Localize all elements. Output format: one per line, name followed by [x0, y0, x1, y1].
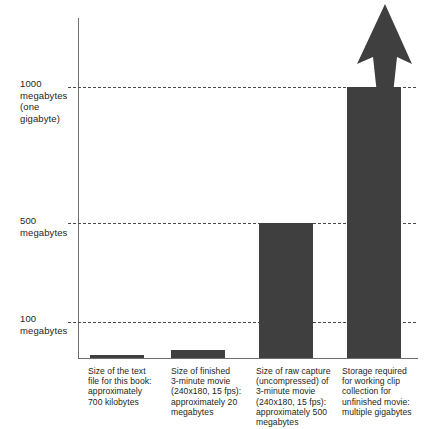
caption-line: 3-minute movie — [171, 376, 255, 386]
caption-line: multiple gigabytes — [342, 407, 426, 417]
caption-line: Storage required — [342, 366, 426, 376]
caption-line: 700 kilobytes — [88, 397, 172, 407]
caption-line: approximately — [88, 386, 172, 396]
y-axis-line — [78, 18, 79, 359]
caption-finished-movie: Size of finished 3-minute movie (240x180… — [171, 366, 255, 417]
caption-line: approximately 500 — [256, 407, 340, 417]
y-tick-1000-unit: megabytes — [20, 90, 82, 102]
y-tick-1000: 1000 megabytes (one gigabyte) — [20, 78, 82, 124]
overflow-arrow-icon — [345, 2, 415, 94]
caption-line: (uncompressed) of — [256, 376, 340, 386]
y-tick-1000-note: (one gigabyte) — [20, 101, 82, 124]
caption-line: megabytes — [256, 417, 340, 427]
y-tick-500-value: 500 — [20, 215, 82, 227]
caption-line: 3-minute movie — [256, 386, 340, 396]
caption-line: approximately 20 — [171, 397, 255, 407]
caption-line: (240x180, 15 fps): — [171, 386, 255, 396]
bar-text-file — [90, 355, 144, 358]
caption-line: (240x180, 15 fps): — [256, 397, 340, 407]
bar-finished-movie — [171, 350, 225, 358]
arrow-up-icon — [345, 2, 415, 94]
bar-raw-capture — [259, 223, 313, 358]
caption-line: Size of the text — [88, 366, 172, 376]
caption-line: megabytes — [171, 407, 255, 417]
caption-working-clip-collection: Storage required for working clip collec… — [342, 366, 426, 417]
chart-page: 1000 megabytes (one gigabyte) 500 megaby… — [0, 0, 427, 429]
caption-line: collection for — [342, 386, 426, 396]
caption-line: Size of raw capture — [256, 366, 340, 376]
caption-line: unfinished movie: — [342, 397, 426, 407]
caption-raw-capture: Size of raw capture (uncompressed) of 3-… — [256, 366, 340, 427]
bar-working-clip-collection — [347, 87, 401, 358]
caption-line: Size of finished — [171, 366, 255, 376]
y-tick-500-unit: megabytes — [20, 227, 82, 239]
caption-text-file: Size of the text file for this book: app… — [88, 366, 172, 407]
caption-line: for working clip — [342, 376, 426, 386]
y-tick-500: 500 megabytes — [20, 215, 82, 238]
y-tick-100: 100 megabytes — [20, 313, 82, 336]
caption-line: file for this book: — [88, 376, 172, 386]
y-tick-100-unit: megabytes — [20, 325, 82, 337]
x-axis-line — [78, 358, 418, 359]
